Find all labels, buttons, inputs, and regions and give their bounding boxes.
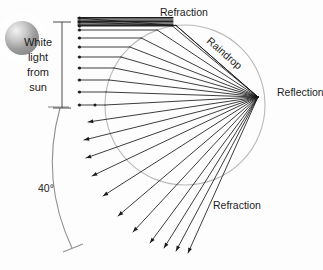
label-white-light-line3: from bbox=[27, 66, 49, 78]
angle-arc bbox=[48, 107, 83, 252]
optics-diagram-svg: Refraction Raindrop Reflection Refractio… bbox=[0, 0, 323, 270]
label-refraction-top: Refraction bbox=[160, 6, 208, 18]
label-white-light-line2: light bbox=[28, 51, 48, 63]
label-angle-40: 40° bbox=[38, 182, 54, 194]
label-reflection: Reflection bbox=[277, 86, 323, 98]
white-light-bracket bbox=[53, 22, 71, 108]
label-white-light-line1: White bbox=[24, 36, 52, 48]
label-refraction-bottom: Refraction bbox=[213, 199, 261, 211]
ray-diagram-figure: Refraction Raindrop Reflection Refractio… bbox=[0, 0, 323, 270]
label-white-light-line4: sun bbox=[29, 81, 47, 93]
